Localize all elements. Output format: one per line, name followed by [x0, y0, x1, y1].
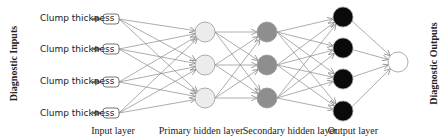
neural-network-diagram: Diagnostic Inputs Diagnostic Outputs Clu…: [0, 0, 448, 140]
output-edge: [351, 49, 387, 59]
connection-edge: [277, 54, 334, 98]
connection-edge: [277, 25, 335, 98]
primary-hidden-node: [195, 22, 215, 42]
input-label-2: Clump thickness: [40, 44, 114, 54]
output-node: [333, 69, 353, 89]
output-node: [333, 101, 353, 121]
input-label-3: Clump thickness: [40, 76, 114, 86]
secondary-hidden-node: [257, 55, 277, 75]
network-nodes: [103, 7, 408, 121]
diagnostic-outputs-label: Diagnostic Outputs: [428, 14, 439, 114]
input-label-4: Clump thickness: [40, 108, 114, 118]
connection-edge: [277, 32, 335, 103]
connection-edges: [92, 19, 390, 113]
final-output-node: [388, 52, 408, 72]
output-edge: [351, 20, 389, 55]
connection-edge: [119, 49, 195, 93]
secondary-hidden-layer-label: Secondary hidden layer: [243, 125, 337, 136]
connection-edge: [119, 49, 194, 63]
connection-edge: [119, 34, 194, 49]
secondary-hidden-node: [257, 22, 277, 42]
secondary-hidden-node: [257, 88, 277, 108]
connection-edge: [119, 67, 194, 82]
connection-edge: [119, 82, 194, 96]
output-layer-label: Output layer: [328, 125, 378, 136]
connection-edge: [277, 82, 332, 98]
primary-hidden-node: [195, 88, 215, 108]
output-node: [333, 7, 353, 27]
output-edge: [351, 69, 390, 107]
primary-hidden-node: [195, 55, 215, 75]
connection-edge: [215, 32, 257, 60]
input-layer-label: Input layer: [91, 125, 135, 136]
input-label-1: Clump thickness: [40, 13, 114, 23]
connection-edge: [119, 37, 195, 82]
output-node: [333, 38, 353, 58]
diagnostic-inputs-label: Diagnostic Inputs: [8, 19, 19, 109]
output-edge: [351, 65, 387, 77]
connection-edge: [215, 70, 257, 98]
primary-hidden-layer-label: Primary hidden layer: [159, 125, 243, 136]
connection-edge: [277, 98, 332, 109]
connection-edge: [277, 50, 332, 65]
